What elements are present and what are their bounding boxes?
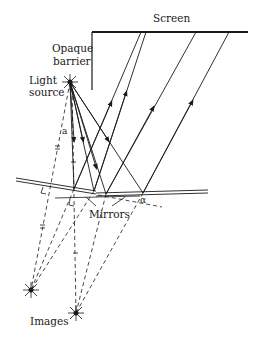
mirror-right [96, 190, 208, 196]
incident-rays [70, 82, 143, 194]
source-label-line1: Light [29, 75, 57, 86]
mirror-leader-lines [86, 197, 125, 206]
mirror-left [16, 178, 96, 194]
barrier-label-line1: Opaque [52, 43, 93, 54]
source-label-line2: source [29, 87, 65, 98]
two-mirror-interference-diagram [0, 0, 265, 345]
mirrors-label: Mirrors [89, 209, 130, 220]
barrier-label-line2: barrier [53, 56, 91, 67]
image-source-2-icon [68, 305, 84, 321]
images-label: Images [30, 316, 69, 327]
screen-label: Screen [153, 13, 190, 24]
reflected-rays [74, 32, 229, 194]
equal-distance-ticks [40, 146, 78, 253]
angle-label: α [140, 195, 146, 206]
image-source-1-icon [23, 282, 39, 298]
distance-label: a [62, 126, 67, 137]
